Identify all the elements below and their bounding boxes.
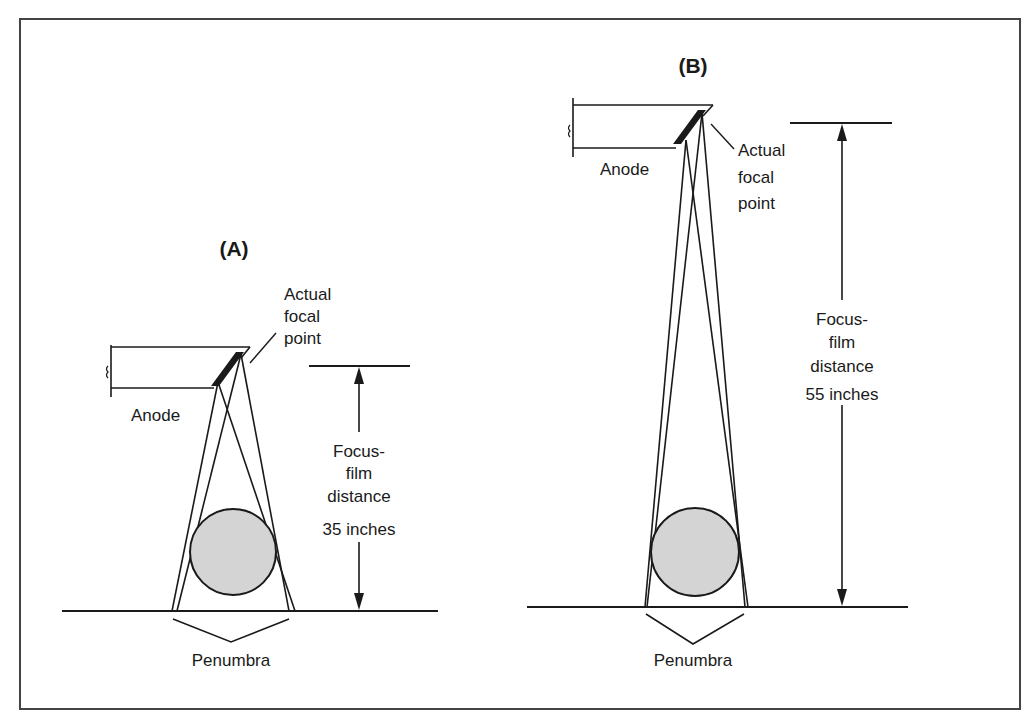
diagram-canvas: (A) Penumbra Anode Actual [0, 0, 1035, 725]
distance-label-b-1: Focus- [816, 310, 868, 329]
panel-b-title: (B) [678, 54, 707, 77]
object-sphere-b [651, 508, 739, 596]
penumbra-label-a: Penumbra [192, 651, 271, 670]
panel-a: (A) Penumbra Anode Actual [62, 237, 438, 670]
distance-label-b-4: 55 inches [806, 385, 879, 404]
anode-b [569, 98, 714, 157]
arrow-up-icon [354, 367, 364, 384]
anode-label-b: Anode [600, 160, 649, 179]
distance-label-a-4: 35 inches [323, 520, 396, 539]
panel-b: (B) Penumbra Anode Actual focal point [527, 54, 908, 670]
arrow-down-icon [837, 589, 847, 606]
focal-label-b-3: point [738, 194, 775, 213]
arrow-up-icon [837, 124, 847, 141]
focal-label-a-1: Actual [284, 285, 331, 304]
distance-label-a-1: Focus- [333, 442, 385, 461]
panel-a-title: (A) [219, 237, 248, 260]
object-sphere-a [190, 509, 276, 595]
focal-label-b-1: Actual [738, 141, 785, 160]
distance-label-a-3: distance [327, 487, 390, 506]
distance-label-b-3: distance [810, 357, 873, 376]
distance-label-b-2: film [829, 333, 855, 352]
penumbra-label-b: Penumbra [654, 651, 733, 670]
anode-a [107, 345, 251, 397]
focal-spot-a [211, 352, 244, 386]
focal-label-a-2: focal [284, 307, 320, 326]
anode-label-a: Anode [131, 406, 180, 425]
penumbra-bracket-a [173, 619, 289, 642]
arrow-down-icon [354, 593, 364, 610]
penumbra-bracket-b [646, 614, 744, 644]
distance-label-a-2: film [346, 464, 372, 483]
focal-label-a-3: point [284, 329, 321, 348]
focal-label-b-2: focal [738, 168, 774, 187]
